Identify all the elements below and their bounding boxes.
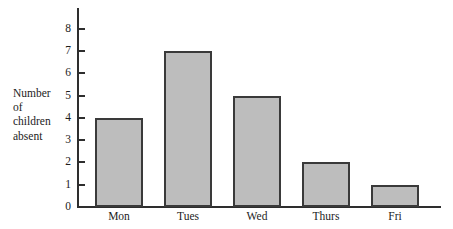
y-tick-mark-3 [79,139,85,141]
bar-wed [233,96,281,208]
y-tick-label-1: 1 [55,179,71,191]
x-label-wed: Wed [233,210,281,223]
x-label-mon: Mon [95,210,143,223]
x-label-fri: Fri [371,210,419,223]
bar-chart: Number of children absent 0 1 2 3 4 5 6 … [0,0,453,229]
y-tick-mark-7 [79,50,85,52]
y-tick-mark-8 [79,28,85,30]
y-tick-mark-0 [79,206,85,208]
y-tick-label-5: 5 [55,90,71,102]
y-tick-label-6: 6 [55,67,71,79]
y-tick-mark-5 [79,95,85,97]
bar-thurs [302,162,350,207]
y-tick-mark-4 [79,117,85,119]
bar-fri [371,185,419,207]
y-tick-label-3: 3 [55,134,71,146]
x-label-thurs: Thurs [302,210,350,223]
bar-mon [95,118,143,207]
y-tick-label-2: 2 [55,156,71,168]
y-tick-label-8: 8 [55,23,71,35]
x-label-tues: Tues [164,210,212,223]
bar-tues [164,51,212,207]
y-axis-line [77,8,79,208]
y-tick-label-0: 0 [55,201,71,213]
y-tick-mark-6 [79,72,85,74]
y-tick-mark-1 [79,184,85,186]
y-tick-mark-2 [79,161,85,163]
y-tick-label-4: 4 [55,112,71,124]
y-tick-label-7: 7 [55,45,71,57]
